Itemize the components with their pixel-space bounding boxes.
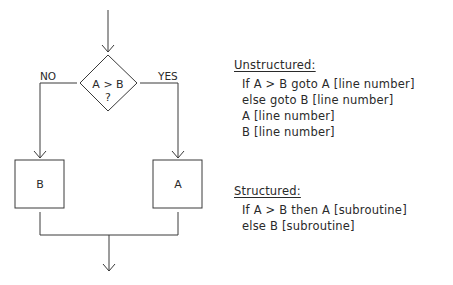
structured-heading: Structured:	[234, 183, 407, 199]
structured-line: If A > B then A [subroutine]	[234, 202, 407, 218]
yes-branch-line	[140, 83, 178, 158]
unstructured-heading: Unstructured:	[234, 57, 415, 73]
structured-line: else B [subroutine]	[234, 218, 407, 234]
no-branch-line	[40, 83, 77, 158]
merge-line	[40, 212, 178, 235]
no-branch-label: NO	[40, 70, 56, 82]
decision-question-mark: ?	[105, 91, 111, 104]
flowchart: A > B ? NO YES B A	[0, 0, 230, 285]
unstructured-line: A [line number]	[234, 108, 415, 124]
box-a-label: A	[174, 178, 182, 191]
decision-condition: A > B	[92, 78, 123, 91]
unstructured-section: Unstructured: If A > B goto A [line numb…	[234, 57, 415, 140]
structured-section: Structured: If A > B then A [subroutine]…	[234, 183, 407, 234]
box-b-label: B	[36, 178, 44, 191]
unstructured-line: B [line number]	[234, 124, 415, 140]
unstructured-line: If A > B goto A [line number]	[234, 76, 415, 92]
yes-branch-label: YES	[157, 70, 178, 82]
unstructured-line: else goto B [line number]	[234, 92, 415, 108]
